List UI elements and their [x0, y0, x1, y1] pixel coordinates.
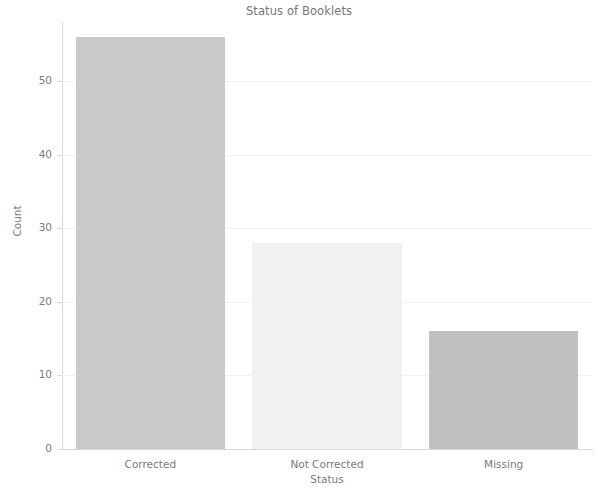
bar: [429, 331, 578, 449]
x-axis-label: Status: [62, 473, 592, 485]
plot-area: [62, 22, 592, 449]
bar: [252, 243, 401, 449]
chart-title: Status of Booklets: [0, 4, 598, 18]
y-tick-label: 0: [45, 443, 52, 454]
x-tick-label: Corrected: [62, 458, 239, 470]
y-tick-label: 20: [39, 296, 52, 307]
y-tick-label: 10: [39, 369, 52, 380]
y-tick-mark: [57, 155, 62, 156]
chart-figure: Status of Booklets Status Count 01020304…: [0, 0, 598, 489]
y-tick-mark: [57, 81, 62, 82]
bar: [76, 37, 225, 449]
x-tick-label: Missing: [415, 458, 592, 470]
y-tick-mark: [57, 228, 62, 229]
y-tick-mark: [57, 449, 62, 450]
y-tick-label: 30: [39, 222, 52, 233]
y-tick-mark: [57, 375, 62, 376]
y-tick-label: 40: [39, 149, 52, 160]
y-tick-mark: [57, 302, 62, 303]
x-axis-line: [62, 449, 593, 450]
y-tick-label: 50: [39, 75, 52, 86]
x-tick-label: Not Corrected: [239, 458, 416, 470]
y-axis-label: Count: [11, 191, 23, 251]
